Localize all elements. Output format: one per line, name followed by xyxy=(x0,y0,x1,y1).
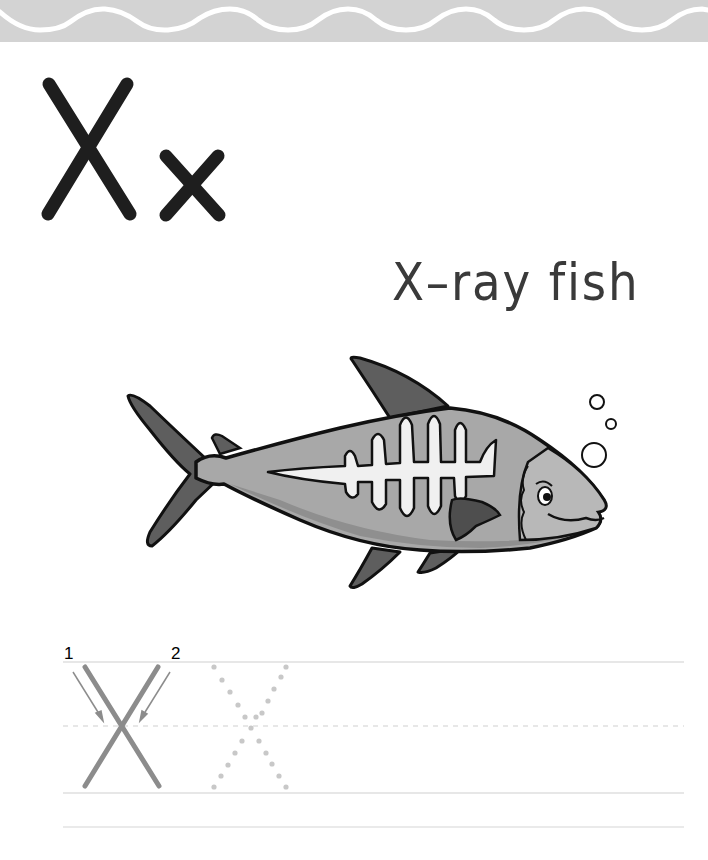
stroke-number-2: 2 xyxy=(171,644,180,663)
stroke-arrow-2-icon xyxy=(140,672,170,721)
dotted-trace-letter-x[interactable] xyxy=(211,664,288,789)
stroke-number-1: 1 xyxy=(64,644,73,663)
stroke-arrow-1-icon xyxy=(73,672,103,721)
handwriting-practice-area: 1 2 xyxy=(0,0,708,860)
